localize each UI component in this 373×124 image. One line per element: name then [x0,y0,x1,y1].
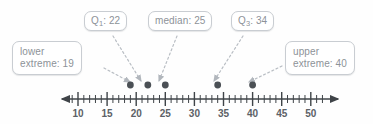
callout-q3-text: Q3: 34 [238,15,267,26]
axis-tick-label: 20 [131,108,142,119]
callout-upper-extreme: upper extreme: 40 [285,41,355,75]
axis-tick-label: 30 [189,108,200,119]
axis-tick-label: 25 [160,108,171,119]
data-point [144,82,151,89]
callout-median-text: median: 25 [155,15,205,26]
callout-q1: Q1: 22 [84,11,127,31]
axis-tick-label: 45 [276,108,287,119]
axis-tick-label: 40 [247,108,258,119]
callout-q1-text: Q1: 22 [91,15,120,26]
data-point [214,82,221,89]
connector-upper-extreme [249,66,282,82]
data-points [127,82,256,89]
connector-q3 [214,36,243,81]
callout-lower-extreme: lower extreme: 19 [12,41,82,75]
data-point [162,82,169,89]
data-point [249,82,256,89]
axis-tick-label: 50 [305,108,316,119]
axis-tick-label: 10 [72,108,83,119]
connector-q1 [113,36,141,81]
connector-lower-extreme [104,68,130,82]
boxplot-summary-figure: 101520253035404550 Q1: 22 median: 25 Q3:… [0,0,373,124]
callout-connectors [104,36,282,82]
data-point [127,82,134,89]
callout-q3-subscript: 3 [246,19,250,28]
callout-lower-extreme-line1: lower [20,46,74,58]
axis-tick-label: 35 [218,108,229,119]
callout-upper-extreme-line2: extreme: 40 [293,58,347,70]
axis-tick-label: 15 [102,108,113,119]
callout-q3: Q3: 34 [231,11,274,31]
connector-median [159,36,177,81]
callout-lower-extreme-line2: extreme: 19 [20,58,74,70]
callout-upper-extreme-line1: upper [293,46,347,58]
callout-q1-subscript: 1 [99,19,103,28]
callout-median: median: 25 [148,11,212,31]
